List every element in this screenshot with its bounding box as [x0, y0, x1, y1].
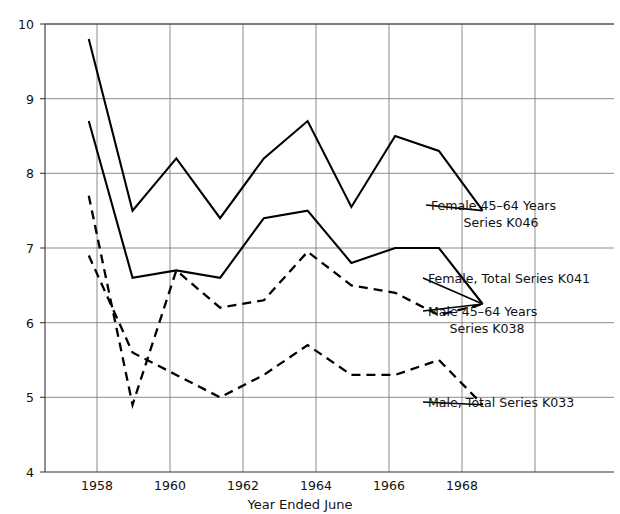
- y-label-8: 8: [26, 166, 34, 181]
- annotation-k038-line1: Male 45–64 Years: [428, 304, 537, 319]
- x-label-1960: 1960: [154, 478, 186, 493]
- y-label-9: 9: [26, 92, 34, 107]
- annotation-k041: Female, Total Series K041: [428, 271, 590, 286]
- y-label-10: 10: [18, 17, 34, 32]
- x-label-1958: 1958: [81, 478, 113, 493]
- chart-figure: 10 9 8 7 6 5 4 1958 1960 1962 1964 1966 …: [0, 0, 620, 514]
- x-label-1964: 1964: [300, 478, 332, 493]
- annotation-k041-line1: Female, Total Series K041: [428, 271, 590, 286]
- chart-background: [0, 0, 620, 514]
- y-label-5: 5: [26, 390, 34, 405]
- y-label-7: 7: [26, 241, 34, 256]
- annotation-k038-line2: Series K038: [449, 321, 524, 336]
- y-label-4: 4: [26, 465, 34, 480]
- line-chart: 10 9 8 7 6 5 4 1958 1960 1962 1964 1966 …: [0, 0, 620, 514]
- annotation-k046-line1: Female 45–64 Years: [431, 198, 556, 213]
- x-label-1966: 1966: [373, 478, 405, 493]
- annotation-k046-line2: Series K046: [463, 215, 538, 230]
- annotation-k033-line1: Male, Total Series K033: [428, 395, 574, 410]
- y-label-6: 6: [26, 316, 34, 331]
- annotation-k033: Male, Total Series K033: [428, 395, 574, 410]
- x-label-1962: 1962: [227, 478, 259, 493]
- x-label-1968: 1968: [446, 478, 478, 493]
- x-axis-title: Year Ended June: [246, 497, 352, 512]
